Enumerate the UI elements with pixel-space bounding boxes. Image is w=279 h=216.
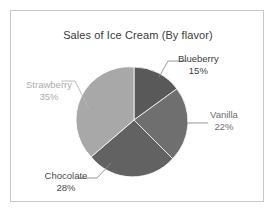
pie-label-vanilla: Vanilla 22% <box>210 109 238 132</box>
pie-label-chocolate-value: 28% <box>35 182 97 194</box>
pie-label-blueberry-value: 15% <box>178 65 219 77</box>
chart-frame: Sales of Ice Cream (By flavor) Blueberry… <box>10 10 264 202</box>
pie-label-strawberry: Strawberry 35% <box>18 79 80 102</box>
pie-label-blueberry-name: Blueberry <box>178 53 219 65</box>
pie-label-vanilla-value: 22% <box>210 121 238 133</box>
pie-label-chocolate-name: Chocolate <box>35 170 97 182</box>
pie-label-strawberry-value: 35% <box>18 91 80 103</box>
pie-label-chocolate: Chocolate 28% <box>35 170 97 193</box>
pie-label-strawberry-name: Strawberry <box>18 79 80 91</box>
pie-label-blueberry: Blueberry 15% <box>178 53 219 76</box>
pie-label-vanilla-name: Vanilla <box>210 109 238 121</box>
